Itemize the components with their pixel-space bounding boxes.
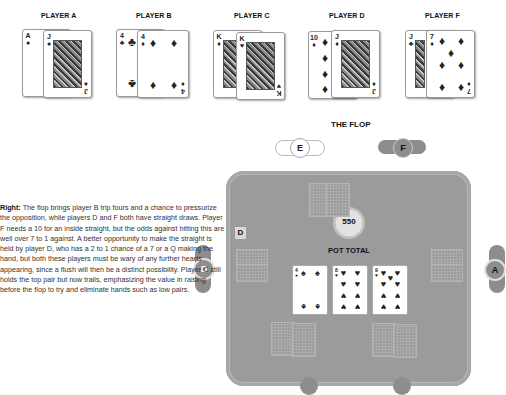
seat-f-marker: F — [393, 138, 413, 158]
player-f-label: PLAYER F — [425, 12, 460, 19]
heart-pip-icon: ♥ — [339, 302, 348, 311]
flop-card-2: 8♥ ♥ ♥ ♥ ♥ ♥ ♥ ♥ ♥ — [332, 265, 368, 315]
spade-pip-icon: ♠ — [313, 269, 322, 278]
face-down-card — [292, 323, 316, 357]
player-card: 4♦ ♦ ♦ ♦ ♦ 4♦ — [137, 30, 189, 98]
diamond-pip-icon: ♦ — [147, 37, 159, 49]
card-index: 7♦ — [465, 81, 473, 95]
spade-pip-icon: ♠ — [299, 269, 308, 278]
heart-pip-icon: ♥ — [353, 291, 362, 300]
king-face-icon — [246, 42, 275, 90]
diamond-pip-icon: ♦ — [455, 35, 467, 47]
card-index: 4♦ — [139, 33, 147, 47]
heart-pip-icon: ♥ — [393, 280, 402, 289]
description-lead: Right: — [0, 203, 21, 212]
poker-table: D 550 POT TOTAL 4♠ ♠ ♠ ♠ ♠ 8♥ ♥ ♥ ♥ ♥ ♥ … — [226, 171, 471, 386]
heart-pip-icon: ♥ — [353, 280, 362, 289]
card-index: K♥ — [275, 83, 283, 97]
pot-amount: 550 — [333, 217, 365, 226]
heart-pip-icon: ♥ — [379, 291, 388, 300]
diamond-pip-icon: ♦ — [436, 81, 448, 93]
player-card: J♠ J♠ — [43, 30, 92, 98]
heart-pip-icon: ♥ — [353, 269, 362, 278]
card-index: J♠ — [45, 33, 53, 47]
face-down-card — [393, 324, 417, 358]
card-index: J♦ — [370, 81, 378, 95]
diamond-pip-icon: ♦ — [319, 36, 331, 48]
face-down-card — [431, 264, 463, 282]
diamond-pip-icon: ♦ — [147, 79, 159, 91]
description-body: The flop brings player B trip fours and … — [0, 203, 224, 294]
seat-e-marker: E — [290, 138, 310, 158]
diamond-pip-icon: ♦ — [319, 83, 331, 95]
card-index: 10♦ — [310, 34, 318, 48]
section-title: THE FLOP — [331, 120, 371, 129]
card-index: 7♦ — [428, 33, 436, 47]
card-index: 4♦ — [179, 81, 187, 95]
flop-description: Right: The flop brings player B trip fou… — [0, 203, 226, 296]
face-down-card — [236, 264, 268, 282]
seat-a-marker: A — [484, 259, 506, 281]
diamond-pip-icon: ♦ — [319, 52, 331, 64]
heart-pip-icon: ♥ — [379, 280, 388, 289]
heart-pip-icon: ♥ — [393, 291, 402, 300]
heart-pip-icon: ♥ — [339, 291, 348, 300]
player-card: 7♦ ♦ ♦ ♦ ♦ ♦ ♦ ♦ 7♦ — [426, 30, 475, 98]
flop-card-1: 4♠ ♠ ♠ ♠ ♠ — [292, 265, 328, 315]
spade-pip-icon: ♠ — [299, 302, 308, 311]
heart-pip-icon: ♥ — [393, 302, 402, 311]
diamond-pip-icon: ♦ — [436, 59, 448, 71]
seat-bottom-left-marker — [300, 377, 318, 395]
jack-face-icon — [53, 40, 82, 88]
player-card: K♥ K♥ — [236, 32, 285, 100]
card-index: J♣ — [407, 33, 415, 47]
diamond-pip-icon: ♦ — [455, 59, 467, 71]
player-c-label: PLAYER C — [234, 12, 270, 19]
card-index: 4♣ — [118, 32, 126, 46]
card-index: K♥ — [238, 35, 246, 49]
diamond-pip-icon: ♦ — [445, 47, 457, 59]
diamond-pip-icon: ♦ — [319, 68, 331, 80]
card-index: J♠ — [82, 81, 90, 95]
heart-pip-icon: ♥ — [353, 302, 362, 311]
heart-pip-icon: ♥ — [339, 269, 348, 278]
heart-pip-icon: ♥ — [339, 280, 348, 289]
player-d-label: PLAYER D — [329, 12, 365, 19]
card-index: A♠ — [24, 32, 32, 46]
jack-face-icon — [341, 40, 370, 88]
player-a-label: PLAYER A — [41, 12, 76, 19]
heart-pip-icon: ♥ — [379, 302, 388, 311]
card-index: J♦ — [333, 33, 341, 47]
player-b-label: PLAYER B — [136, 12, 172, 19]
player-card: J♦ J♦ — [331, 30, 380, 98]
card-index: K♦ — [215, 33, 223, 47]
spade-pip-icon: ♠ — [313, 302, 322, 311]
dealer-button: D — [235, 227, 246, 239]
diamond-pip-icon: ♦ — [436, 35, 448, 47]
face-down-card — [326, 183, 350, 217]
jack-face-icon — [415, 40, 425, 88]
seat-bottom-right-marker — [393, 377, 411, 395]
flop-card-3: 9♥ ♥ ♥ ♥ ♥ ♥ ♥ ♥ ♥ ♥ — [372, 265, 408, 315]
diamond-pip-icon: ♦ — [168, 37, 180, 49]
